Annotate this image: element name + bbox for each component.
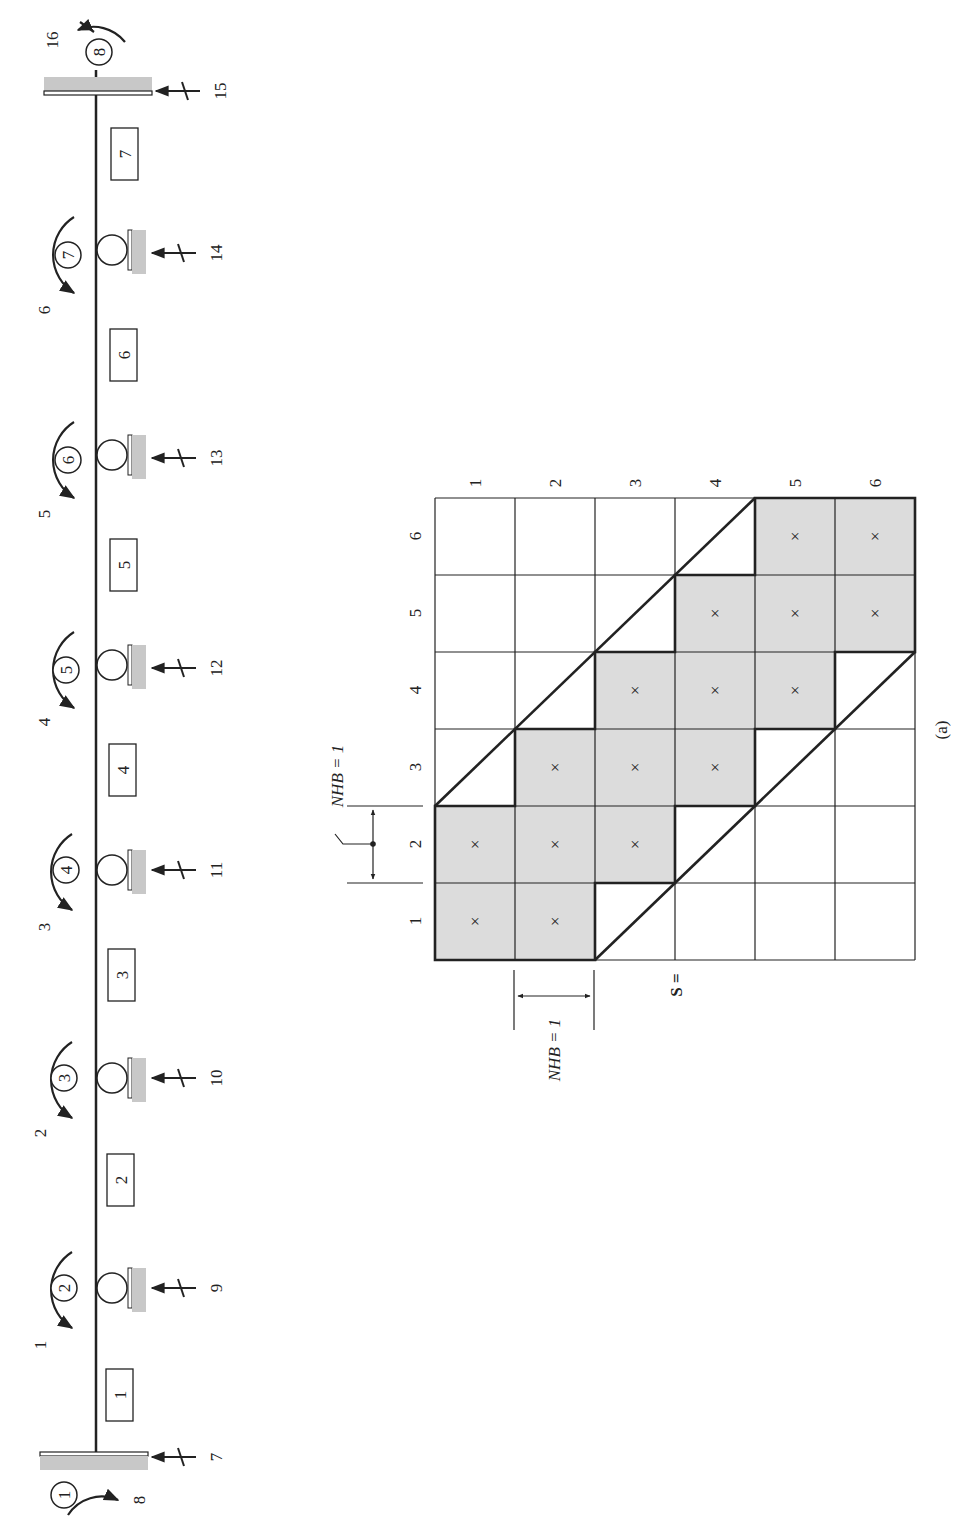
svg-text:7: 7	[207, 1452, 226, 1461]
member-label-6: 6	[110, 329, 137, 381]
roller-support-joint-2	[97, 1268, 146, 1312]
svg-text:×: ×	[870, 604, 880, 623]
nhb-label-bottom: NHB = 1	[545, 1019, 564, 1082]
joint-label-4: 4	[53, 857, 79, 883]
vertical-dof-numbers: 7 9 10 11 12 13 14 15	[207, 83, 230, 1462]
svg-text:7: 7	[116, 149, 135, 158]
svg-text:5: 5	[35, 510, 54, 519]
svg-text:10: 10	[207, 1070, 226, 1087]
svg-text:5: 5	[57, 666, 76, 675]
joint-label-8: 8	[86, 39, 112, 65]
joint-label-5: 5	[53, 657, 79, 683]
svg-text:1: 1	[31, 1341, 50, 1350]
roller-support-joint-7	[97, 230, 146, 274]
svg-text:1: 1	[406, 917, 425, 926]
svg-text:9: 9	[207, 1284, 226, 1293]
svg-text:2: 2	[55, 1284, 74, 1293]
svg-text:×: ×	[790, 604, 800, 623]
matrix-col-labels: 1 2 3 4 5 6	[406, 532, 425, 926]
roller-support-joint-4	[97, 850, 146, 894]
svg-text:4: 4	[57, 865, 76, 874]
roller-support-joint-3	[97, 1058, 146, 1102]
svg-text:1: 1	[466, 479, 485, 488]
svg-text:8: 8	[90, 48, 109, 57]
svg-text:8: 8	[130, 1496, 149, 1505]
svg-text:11: 11	[207, 862, 226, 878]
svg-text:3: 3	[55, 1074, 74, 1083]
svg-text:6: 6	[866, 479, 885, 488]
svg-text:2: 2	[31, 1129, 50, 1138]
diagram-canvas: 1 2 3 4 5 6 7 8 8 1 2 3 4 5 6 16 7 9 10 …	[0, 0, 957, 1522]
roller-support-joint-5	[97, 645, 146, 689]
joint-label-1: 1	[51, 1482, 77, 1508]
joint-label-3: 3	[51, 1065, 77, 1091]
continuous-beam: 1 2 3 4 5 6 7 8 8 1 2 3 4 5 6 16 7 9 10 …	[31, 22, 230, 1515]
svg-text:3: 3	[113, 971, 132, 980]
svg-text:×: ×	[710, 758, 720, 777]
member-label-3: 3	[108, 949, 135, 1001]
svg-text:6: 6	[115, 351, 134, 360]
joint-label-7: 7	[55, 242, 81, 268]
svg-text:4: 4	[706, 478, 725, 487]
stiffness-matrix: × × × × × × × × × × × × × × × × 1 2 3 4 …	[328, 478, 951, 1082]
svg-text:1: 1	[55, 1491, 74, 1500]
svg-text:3: 3	[406, 763, 425, 772]
svg-text:6: 6	[59, 456, 78, 465]
joint-label-2: 2	[51, 1275, 77, 1301]
svg-text:×: ×	[870, 527, 880, 546]
svg-text:×: ×	[470, 835, 480, 854]
roller-support-joint-6	[97, 435, 146, 479]
member-label-4: 4	[109, 744, 136, 796]
figure-caption: (a)	[932, 721, 951, 740]
matrix-row-labels: 1 2 3 4 5 6	[466, 478, 885, 487]
svg-text:×: ×	[470, 912, 480, 931]
member-label-1: 1	[106, 1369, 133, 1421]
svg-text:4: 4	[114, 765, 133, 774]
member-label-2: 2	[107, 1154, 134, 1206]
svg-text:×: ×	[550, 912, 560, 931]
svg-text:16: 16	[43, 32, 62, 49]
member-labels: 1 2 3 4 5 6 7	[106, 128, 138, 1421]
svg-text:2: 2	[546, 479, 565, 488]
svg-text:2: 2	[112, 1176, 131, 1185]
svg-text:×: ×	[550, 758, 560, 777]
vertical-dof-arrows	[152, 82, 200, 1466]
svg-text:5: 5	[786, 479, 805, 488]
svg-text:5: 5	[115, 561, 134, 570]
svg-text:×: ×	[630, 681, 640, 700]
svg-text:×: ×	[790, 527, 800, 546]
svg-text:×: ×	[790, 681, 800, 700]
nhb-label-top: NHB = 1	[328, 745, 347, 808]
svg-text:×: ×	[630, 758, 640, 777]
svg-text:×: ×	[550, 835, 560, 854]
svg-text:2: 2	[406, 840, 425, 849]
svg-text:×: ×	[630, 835, 640, 854]
member-label-5: 5	[110, 539, 137, 591]
svg-text:7: 7	[59, 250, 78, 259]
svg-text:3: 3	[626, 479, 645, 488]
svg-text:×: ×	[710, 681, 720, 700]
member-label-7: 7	[111, 128, 138, 180]
svg-text:4: 4	[406, 685, 425, 694]
svg-text:6: 6	[406, 532, 425, 541]
svg-text:6: 6	[35, 306, 54, 315]
fixed-support-joint-1	[40, 1452, 148, 1470]
joint-label-6: 6	[55, 447, 81, 473]
svg-text:3: 3	[35, 923, 54, 932]
svg-text:4: 4	[35, 717, 54, 726]
svg-text:5: 5	[406, 609, 425, 618]
matrix-name: S =	[667, 973, 686, 996]
svg-text:13: 13	[207, 450, 226, 467]
svg-text:×: ×	[710, 604, 720, 623]
svg-text:14: 14	[207, 244, 226, 262]
svg-text:15: 15	[211, 83, 230, 100]
fixed-support-joint-8	[44, 77, 152, 95]
svg-text:12: 12	[207, 660, 226, 677]
svg-text:1: 1	[111, 1391, 130, 1400]
